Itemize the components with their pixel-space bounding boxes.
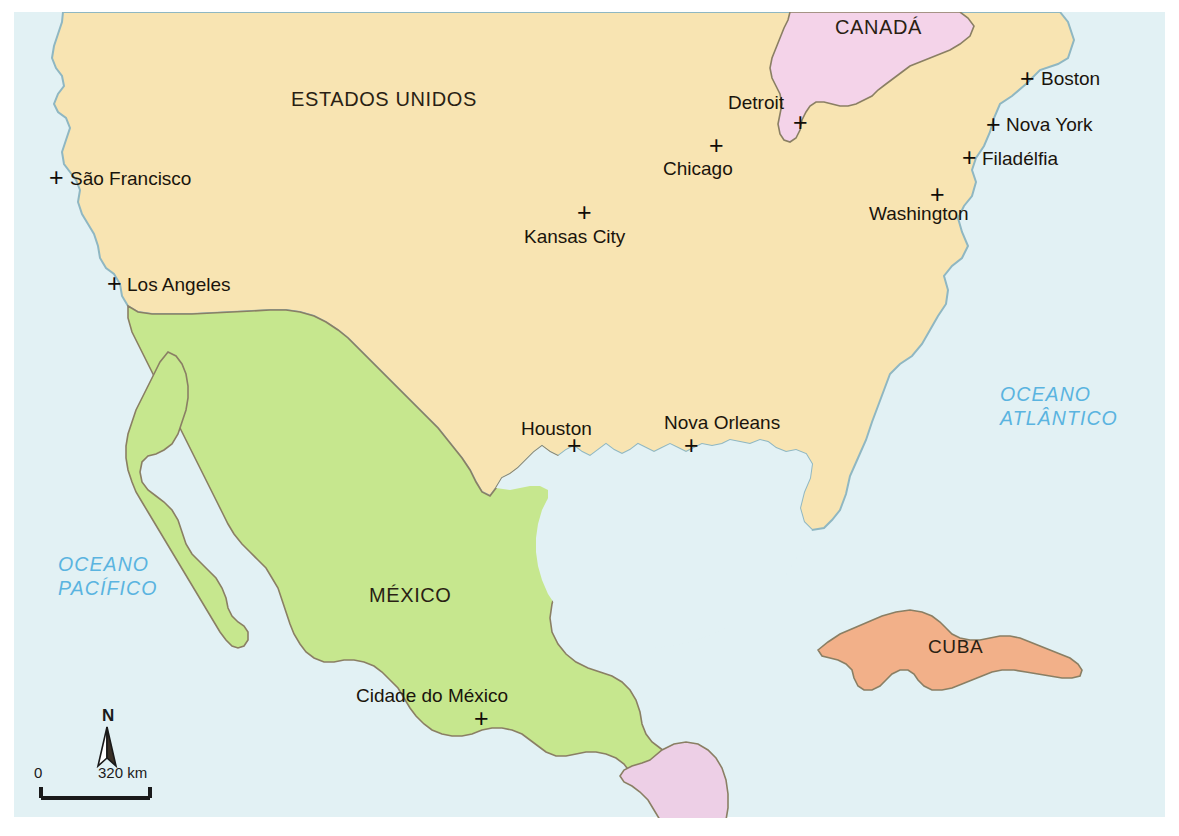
north-label: N	[102, 706, 114, 726]
margin-top	[0, 0, 1179, 12]
scale-max-label: 320 km	[98, 764, 147, 781]
margin-right	[1165, 0, 1179, 836]
scale-min-label: 0	[34, 764, 42, 781]
north-arrow-icon	[94, 726, 120, 768]
map-canvas: ESTADOS UNIDOS CANADÁ MÉXICO CUBA OCEANO…	[0, 0, 1179, 836]
scale-bar-icon	[38, 786, 168, 802]
map-legend: N 0 320 km	[34, 706, 204, 802]
margin-bottom	[0, 818, 1179, 836]
margin-left	[0, 0, 14, 836]
